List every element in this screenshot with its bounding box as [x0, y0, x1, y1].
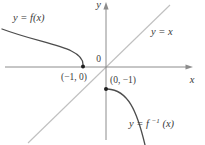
f-curve-label: y = f(x)	[12, 12, 45, 24]
f-inverse-label-prefix: y = f	[128, 118, 151, 129]
f-inverse-label-suffix: (x)	[162, 118, 174, 130]
y-axis-label: y	[95, 0, 101, 10]
point-label-minus1-0: (−1, 0)	[61, 72, 87, 83]
figure-canvas: y x 0 y = f(x) y = x y = f −1 (x) (−1, 0…	[0, 0, 205, 145]
y-axis-arrow-icon	[103, 2, 108, 10]
f-inverse-curve-label: y = f −1 (x)	[128, 114, 175, 130]
endpoint-dot-minus1-0	[81, 65, 85, 69]
f-curve	[2, 29, 83, 65]
x-axis-label: x	[189, 74, 195, 85]
point-label-0-minus1: (0, −1)	[110, 75, 136, 86]
x-axis-arrow-icon	[186, 64, 194, 69]
f-inverse-curve	[108, 89, 146, 145]
inverse-function-figure: y x 0 y = f(x) y = x y = f −1 (x) (−1, 0…	[0, 0, 205, 145]
f-inverse-label-superscript: −1	[152, 117, 160, 125]
identity-line-label: y = x	[150, 26, 173, 37]
endpoint-dot-0-minus1	[104, 87, 108, 91]
origin-label: 0	[96, 54, 101, 64]
